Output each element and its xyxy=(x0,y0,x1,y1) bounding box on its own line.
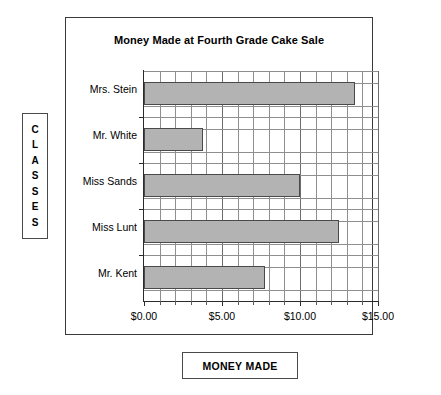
bar xyxy=(144,220,339,243)
bar-row: Mr. White xyxy=(144,117,378,163)
bar xyxy=(144,128,203,151)
category-label: Miss Sands xyxy=(83,175,137,187)
x-axis-minor-tick xyxy=(206,301,207,305)
x-axis-tick-label: $10.00 xyxy=(284,310,316,322)
x-axis-title-box: MONEY MADE xyxy=(182,352,298,379)
y-axis-line xyxy=(143,70,144,302)
x-axis-major-tick xyxy=(222,301,223,306)
y-axis-tick xyxy=(139,117,144,118)
y-axis-tick xyxy=(139,209,144,210)
x-axis-tick-label: $0.00 xyxy=(131,310,157,322)
y-axis-title-letter: A xyxy=(31,153,38,169)
x-axis-line xyxy=(143,301,379,302)
x-axis-minor-tick xyxy=(253,301,254,305)
y-axis-title-letter: S xyxy=(32,168,39,184)
y-axis-title-letter: C xyxy=(31,122,38,138)
y-axis-tick xyxy=(139,255,144,256)
y-axis-title-letter: L xyxy=(32,137,38,153)
x-axis-minor-tick xyxy=(191,301,192,305)
vertical-gridline xyxy=(378,71,379,301)
x-axis-minor-tick xyxy=(347,301,348,305)
x-axis-tick-label: $15.00 xyxy=(362,310,394,322)
bar xyxy=(144,82,355,105)
x-axis-major-tick xyxy=(144,301,145,306)
chart-container: Money Made at Fourth Grade Cake Sale Mrs… xyxy=(65,17,373,335)
y-axis-title-letter: S xyxy=(32,184,39,200)
x-axis-minor-tick xyxy=(160,301,161,305)
bar-series: Mrs. SteinMr. WhiteMiss SandsMiss LuntMr… xyxy=(144,71,378,301)
x-axis-minor-tick xyxy=(238,301,239,305)
x-axis-title-label: MONEY MADE xyxy=(202,360,277,372)
bar-row: Mr. Kent xyxy=(144,255,378,301)
y-axis-tick xyxy=(139,163,144,164)
plot-area: Mrs. SteinMr. WhiteMiss SandsMiss LuntMr… xyxy=(144,71,378,301)
y-axis-title-letter: E xyxy=(32,199,39,215)
category-label: Mr. Kent xyxy=(98,267,137,279)
category-label: Mrs. Stein xyxy=(90,83,137,95)
y-axis-title-box: C L A S S E S xyxy=(22,113,48,239)
x-axis-minor-tick xyxy=(362,301,363,305)
x-axis-tick-label: $5.00 xyxy=(209,310,235,322)
bar xyxy=(144,266,265,289)
x-axis-major-tick xyxy=(300,301,301,306)
y-axis-title-letter: S xyxy=(32,215,39,231)
x-axis-minor-tick xyxy=(316,301,317,305)
x-axis-minor-tick xyxy=(331,301,332,305)
bar-row: Miss Lunt xyxy=(144,209,378,255)
x-axis-minor-tick xyxy=(269,301,270,305)
category-label: Miss Lunt xyxy=(92,221,137,233)
category-label: Mr. White xyxy=(93,129,137,141)
bar-row: Miss Sands xyxy=(144,163,378,209)
x-axis-minor-tick xyxy=(284,301,285,305)
bar-row: Mrs. Stein xyxy=(144,71,378,117)
x-axis-minor-tick xyxy=(175,301,176,305)
x-axis-major-tick xyxy=(378,301,379,306)
chart-title: Money Made at Fourth Grade Cake Sale xyxy=(66,34,372,46)
bar xyxy=(144,174,300,197)
